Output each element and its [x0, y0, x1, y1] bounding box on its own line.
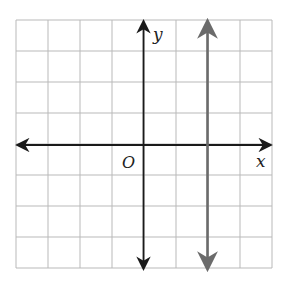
y-axis-label: y — [152, 24, 163, 44]
coordinate-plane: y x O — [0, 0, 286, 292]
x-axis-label: x — [256, 151, 266, 171]
origin-label: O — [122, 153, 135, 172]
